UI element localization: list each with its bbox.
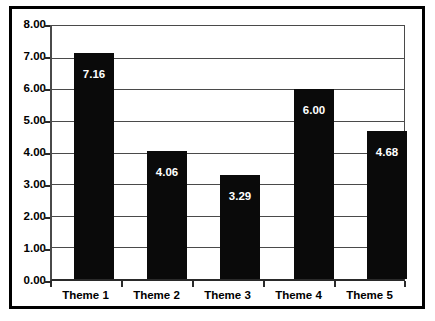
bar-theme-4[interactable]: 6.00 <box>294 89 334 279</box>
bar-value-label: 4.06 <box>147 167 187 179</box>
x-tick-mark <box>192 281 194 287</box>
y-tick-label: 7.00 <box>10 51 46 63</box>
plot-area: 7.16 4.06 3.29 6.00 4.68 <box>50 25 405 281</box>
x-category-label-theme-5: Theme 5 <box>334 290 405 302</box>
x-tick-mark <box>50 281 52 287</box>
y-tick-label: 0.00 <box>10 275 46 287</box>
bar-theme-2[interactable]: 4.06 <box>147 151 187 279</box>
bar-value-label: 3.29 <box>220 191 260 203</box>
x-category-label-theme-2: Theme 2 <box>121 290 192 302</box>
bar-value-label: 4.68 <box>367 147 407 159</box>
x-category-label-theme-4: Theme 4 <box>263 290 334 302</box>
y-tick-label: 1.00 <box>10 243 46 255</box>
y-axis: 8.00 7.00 6.00 5.00 4.00 3.00 2.00 1.00 … <box>12 25 46 281</box>
chart-frame: 8.00 7.00 6.00 5.00 4.00 3.00 2.00 1.00 … <box>9 6 425 309</box>
x-category-label-theme-3: Theme 3 <box>192 290 263 302</box>
y-tick-label: 4.00 <box>10 147 46 159</box>
chart-canvas: 8.00 7.00 6.00 5.00 4.00 3.00 2.00 1.00 … <box>12 9 422 306</box>
x-axis: Theme 1 Theme 2 Theme 3 Theme 4 Theme 5 <box>50 281 405 311</box>
bar-theme-5[interactable]: 4.68 <box>367 131 407 279</box>
x-tick-mark <box>334 281 336 287</box>
x-tick-mark <box>404 281 406 287</box>
y-tick-label: 6.00 <box>10 83 46 95</box>
bar-theme-3[interactable]: 3.29 <box>220 175 260 279</box>
bar-theme-1[interactable]: 7.16 <box>74 53 114 279</box>
y-tick-label: 3.00 <box>10 179 46 191</box>
x-tick-mark <box>121 281 123 287</box>
y-tick-label: 2.00 <box>10 211 46 223</box>
y-tick-label: 8.00 <box>10 19 46 31</box>
bar-value-label: 7.16 <box>74 69 114 81</box>
x-category-label-theme-1: Theme 1 <box>50 290 121 302</box>
x-tick-mark <box>263 281 265 287</box>
y-tick-label: 5.00 <box>10 115 46 127</box>
bar-value-label: 6.00 <box>294 105 334 117</box>
